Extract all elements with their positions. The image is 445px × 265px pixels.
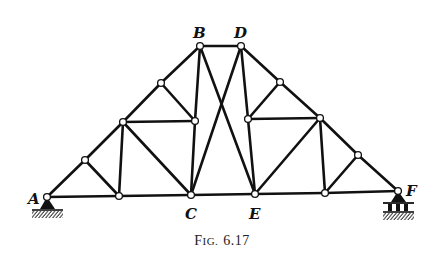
member-r3-r2 xyxy=(280,82,320,118)
member-c-e xyxy=(191,194,255,195)
member-r2-r1 xyxy=(320,118,358,155)
member-d-r3 xyxy=(241,46,280,82)
joint-b xyxy=(197,43,204,50)
member-l2-il xyxy=(123,121,195,122)
label-b: B xyxy=(192,24,206,42)
label-e: E xyxy=(248,205,261,223)
member-l1-bl1 xyxy=(85,160,119,196)
member-e-br1 xyxy=(255,193,325,194)
member-l3-il xyxy=(161,83,195,121)
truss-members xyxy=(47,46,398,197)
member-ir-r2 xyxy=(248,118,320,119)
joint-d xyxy=(238,43,245,50)
joint-r1 xyxy=(355,152,362,159)
joint-c xyxy=(188,192,195,199)
member-r1-f xyxy=(358,155,398,191)
joint-bl1 xyxy=(116,193,123,200)
label-d: D xyxy=(233,24,247,42)
member-b-il xyxy=(195,46,200,121)
joint-r3 xyxy=(277,79,284,86)
joint-il xyxy=(192,118,199,125)
member-a-l1 xyxy=(47,160,85,197)
member-l3-b xyxy=(161,46,200,83)
figure-caption: FIG.6.17 xyxy=(194,233,250,248)
label-a: A xyxy=(26,190,40,208)
joint-l1 xyxy=(82,157,89,164)
member-a-bl1 xyxy=(47,196,119,197)
member-d-ir xyxy=(241,46,248,119)
caption-number: 6.17 xyxy=(223,233,250,248)
truss-diagram: A B C D E F FIG.6.17 xyxy=(0,0,445,265)
joint-l3 xyxy=(158,80,165,87)
label-c: C xyxy=(185,205,197,223)
label-f: F xyxy=(405,182,418,200)
joint-e xyxy=(252,191,259,198)
caption-smallcaps: IG. xyxy=(202,235,218,247)
member-l2-bl1 xyxy=(119,122,123,196)
member-l2-l3 xyxy=(123,83,161,122)
member-r1-br1 xyxy=(325,155,358,193)
joint-br1 xyxy=(322,190,329,197)
truss-joints xyxy=(44,43,402,201)
member-r2-e xyxy=(255,118,320,194)
joint-f xyxy=(395,188,402,195)
joint-r2 xyxy=(317,115,324,122)
caption-prefix: F xyxy=(194,233,202,248)
joint-ir xyxy=(245,116,252,123)
member-r3-ir xyxy=(248,82,280,119)
joint-a xyxy=(44,194,51,201)
joint-l2 xyxy=(120,119,127,126)
member-br1-f xyxy=(325,191,398,193)
member-bl1-c xyxy=(119,195,191,196)
member-l1-l2 xyxy=(85,122,123,160)
member-r2-br1 xyxy=(320,118,325,193)
member-l2-c xyxy=(123,122,191,195)
